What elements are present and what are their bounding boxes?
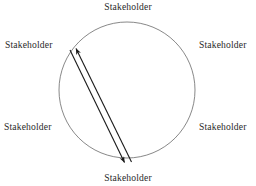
arrow-down-right: [70, 50, 125, 163]
diagram-canvas: Stakeholder Stakeholder Stakeholder Stak…: [0, 0, 256, 186]
stakeholder-label-upper-right: Stakeholder: [199, 39, 246, 50]
boundary-circle: [59, 22, 195, 158]
stakeholder-label-bottom: Stakeholder: [104, 172, 151, 183]
stakeholder-label-top: Stakeholder: [104, 1, 151, 12]
stakeholder-label-lower-right: Stakeholder: [199, 121, 246, 132]
stakeholder-label-lower-left: Stakeholder: [4, 121, 51, 132]
arrow-up-left: [76, 49, 132, 163]
stakeholder-label-upper-left: Stakeholder: [5, 39, 52, 50]
stakeholder-circle-svg: [0, 0, 256, 186]
